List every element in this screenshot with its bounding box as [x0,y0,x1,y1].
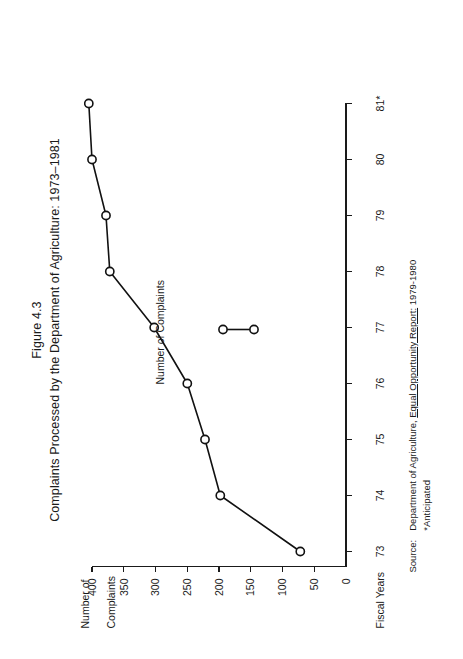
data-point-81 [84,99,92,107]
y-axis-caption-line-2: Complaints [105,575,118,628]
y-tick-label-150: 150 [244,578,256,612]
x-tick-label-76: 76 [374,366,386,400]
x-tick-label-73: 73 [374,534,386,568]
y-tick-label-400: 400 [86,578,98,612]
x-tick-label-78: 78 [374,254,386,288]
source-label: Source: [406,539,435,572]
line-chart-svg [84,72,366,572]
figure-title: Complaints Processed by the Department o… [46,25,64,634]
legend-marker-top [218,325,226,333]
data-point-78 [105,267,113,275]
y-tick-label-0: 0 [340,578,352,612]
x-axis-caption: Fiscal Years [374,571,386,628]
legend-sample [218,325,257,333]
source-citation-prefix: Department of Agriculture, [407,417,418,530]
y-tick-label-250: 250 [181,578,193,612]
data-point-79 [101,211,109,219]
plot-area [84,72,366,572]
y-tick-label-350: 350 [118,578,130,612]
x-tick-label-79: 79 [374,198,386,232]
y-tick-label-100: 100 [276,578,288,612]
source-citation: Department of Agriculture, Equal Opportu… [406,259,420,530]
y-tick-label-50: 50 [308,578,320,612]
source-footnote: *Anticipated [420,259,434,530]
source-block: Source: Department of Agriculture, Equal… [406,259,435,572]
source-citation-suffix: 1979-1980 [407,259,418,307]
data-point-73 [296,547,304,555]
source-citation-title: Equal Opportunity Report: [407,307,418,417]
series-markers [84,99,304,555]
x-tick-label-74: 74 [374,478,386,512]
data-point-74 [216,491,224,499]
figure-rotation-wrapper: Figure 4.3 Complaints Processed by the D… [22,25,442,634]
source-text: Department of Agriculture, Equal Opportu… [406,259,435,530]
x-tick-label-75: 75 [374,422,386,456]
data-point-75 [200,435,208,443]
figure-title-block: Figure 4.3 Complaints Processed by the D… [28,25,64,634]
series-line-number-of-complaints [88,103,299,551]
data-point-80 [87,155,95,163]
legend-label: Number of Complaints [154,280,166,384]
figure-number: Figure 4.3 [28,25,46,634]
y-tick-label-300: 300 [149,578,161,612]
x-tick-label-80: 80 [374,142,386,176]
x-tick-label-81: 81* [374,86,386,120]
y-tick-label-200: 200 [213,578,225,612]
legend-marker-bottom [249,325,257,333]
x-tick-label-77: 77 [374,310,386,344]
data-point-76 [183,379,191,387]
figure-4-3: Figure 4.3 Complaints Processed by the D… [22,25,442,634]
